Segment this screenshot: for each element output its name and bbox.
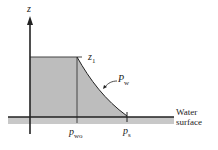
ps-label: ps <box>123 126 131 139</box>
water-band <box>8 117 174 124</box>
shaded-region <box>30 57 127 117</box>
water-label-line1: Water <box>176 107 202 117</box>
z-axis-label: z <box>27 4 31 14</box>
water-label: Water surface <box>176 107 202 127</box>
pwo-label: pwo <box>69 127 83 140</box>
z1-label: z1 <box>88 52 95 65</box>
pw-label: Pw <box>118 74 129 87</box>
z-axis-arrow-icon <box>27 16 33 25</box>
water-label-line2: surface <box>176 117 202 127</box>
diagram-canvas <box>0 0 218 150</box>
leader-line <box>105 81 117 87</box>
